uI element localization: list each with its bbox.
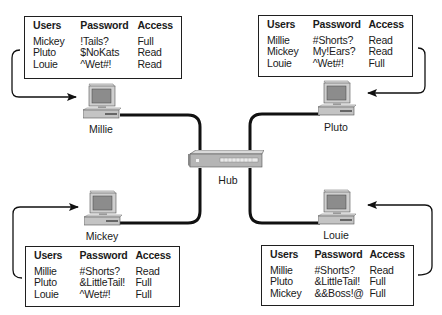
computer-label-millie: Millie bbox=[71, 123, 131, 135]
access-cell: Full bbox=[369, 276, 405, 288]
user-cell: Pluto bbox=[34, 277, 80, 289]
col-access: Access bbox=[137, 20, 173, 36]
acl-row: Mickey My!Ears? Read bbox=[267, 46, 404, 58]
cable-pluto-hub bbox=[250, 114, 320, 152]
col-password: Password bbox=[80, 20, 137, 36]
acl-row: Louie ^Wet#! Read bbox=[33, 59, 173, 71]
hub-label: Hub bbox=[203, 174, 253, 186]
acl-table-mickey: Users Password Access Millie #Shorts? Re… bbox=[25, 246, 180, 307]
access-cell: Read bbox=[137, 59, 173, 71]
acl-header-row: Users Password Access bbox=[34, 250, 171, 266]
access-cell: Full bbox=[135, 277, 171, 289]
password-cell: ^Wet#! bbox=[80, 289, 136, 301]
user-cell: Mickey bbox=[267, 46, 313, 58]
user-cell: Louie bbox=[267, 58, 313, 70]
acl-row: Louie ^Wet#! Full bbox=[34, 289, 171, 301]
acl-row: Pluto $NoKats Read bbox=[33, 47, 173, 59]
col-access: Access bbox=[368, 19, 404, 35]
acl-row: Louie ^Wet#! Full bbox=[267, 58, 404, 70]
password-cell: $NoKats bbox=[80, 47, 137, 59]
acl-header-row: Users Password Access bbox=[267, 19, 404, 35]
acl-header-row: Users Password Access bbox=[33, 20, 173, 36]
acl-table-millie: Users Password Access Mickey !Tails? Ful… bbox=[24, 16, 182, 79]
computer-icon-millie bbox=[83, 83, 121, 119]
access-cell: Full bbox=[369, 288, 405, 300]
access-cell: Full bbox=[135, 289, 171, 301]
col-password: Password bbox=[80, 250, 136, 266]
access-cell: Read bbox=[137, 47, 173, 59]
cable-mickey-hub bbox=[120, 168, 200, 223]
user-cell: Pluto bbox=[33, 47, 80, 59]
user-cell: Louie bbox=[33, 59, 80, 71]
col-password: Password bbox=[313, 19, 369, 35]
password-cell: ^Wet#! bbox=[80, 59, 137, 71]
cable-louie-hub bbox=[250, 168, 320, 223]
col-access: Access bbox=[369, 249, 405, 265]
hub-device-icon bbox=[188, 150, 264, 168]
password-cell: &LittleTail! bbox=[314, 276, 369, 288]
acl-row: Pluto &LittleTail! Full bbox=[34, 277, 171, 289]
user-cell: Pluto bbox=[270, 276, 314, 288]
col-users: Users bbox=[270, 249, 314, 265]
user-cell: Mickey bbox=[270, 288, 314, 300]
acl-table-pluto: Users Password Access Millie #Shorts? Re… bbox=[258, 15, 413, 77]
user-cell: Louie bbox=[34, 289, 80, 301]
password-cell: ^Wet#! bbox=[313, 58, 369, 70]
computer-label-mickey: Mickey bbox=[72, 230, 132, 242]
col-users: Users bbox=[33, 20, 80, 36]
access-cell: Read bbox=[368, 46, 404, 58]
col-access: Access bbox=[135, 250, 171, 266]
password-cell: My!Ears? bbox=[313, 46, 369, 58]
acl-row: Pluto &LittleTail! Full bbox=[270, 276, 405, 288]
password-cell: &&Boss!@ bbox=[314, 288, 369, 300]
acl-header-row: Users Password Access bbox=[270, 249, 405, 265]
computer-icon-mickey bbox=[84, 190, 122, 226]
computer-label-louie: Louie bbox=[306, 229, 366, 241]
computer-label-pluto: Pluto bbox=[306, 121, 366, 133]
computer-icon-pluto bbox=[318, 80, 356, 116]
acl-table-louie: Users Password Access Millie #Shorts? Re… bbox=[261, 245, 414, 306]
password-cell: &LittleTail! bbox=[80, 277, 136, 289]
computer-icon-louie bbox=[318, 189, 356, 225]
col-users: Users bbox=[34, 250, 80, 266]
cable-millie-hub bbox=[120, 115, 200, 152]
col-users: Users bbox=[267, 19, 313, 35]
acl-row: Mickey &&Boss!@ Full bbox=[270, 288, 405, 300]
col-password: Password bbox=[314, 249, 369, 265]
access-cell: Full bbox=[368, 58, 404, 70]
